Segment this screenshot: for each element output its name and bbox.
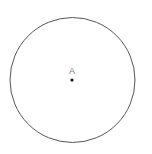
geometry-canvas: [0, 0, 152, 154]
point-a-label: A: [69, 67, 75, 76]
point-a-dot: [70, 78, 73, 81]
